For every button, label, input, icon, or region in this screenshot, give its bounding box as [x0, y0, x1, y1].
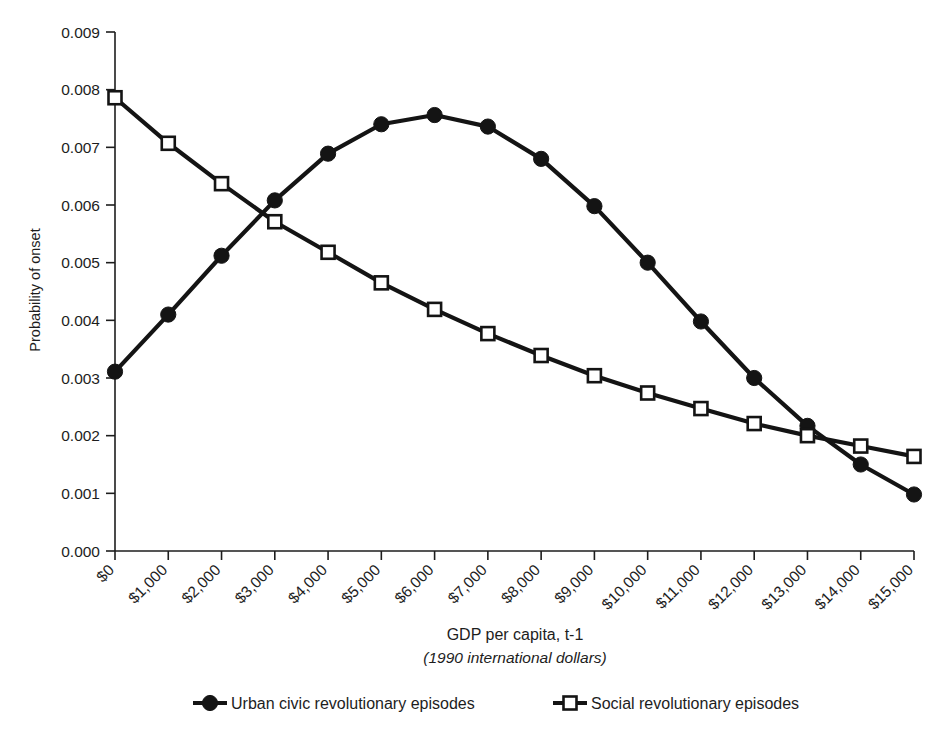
legend-marker-2 [564, 697, 577, 710]
y-axis-title: Probability of onset [27, 228, 43, 351]
data-point [853, 457, 868, 472]
data-point [322, 246, 335, 259]
series-line-1 [115, 115, 914, 494]
x-tick-label: $7,000 [444, 561, 490, 607]
x-tick-label: $3,000 [231, 561, 277, 607]
line-chart: 0.0090.0080.0070.0060.0050.0040.0030.002… [0, 0, 940, 737]
y-tick-label: 0.000 [61, 543, 100, 560]
chart-series-layer [107, 91, 921, 502]
data-point [374, 117, 389, 132]
y-tick-label: 0.005 [61, 254, 100, 271]
data-point [854, 440, 867, 453]
y-tick-label: 0.006 [61, 197, 100, 214]
y-tick-label: 0.003 [61, 370, 100, 387]
x-tick-label: $14,000 [811, 561, 863, 613]
data-point [107, 364, 122, 379]
chart-figure: 0.0090.0080.0070.0060.0050.0040.0030.002… [0, 0, 940, 737]
legend-label-2: Social revolutionary episodes [591, 695, 799, 712]
x-tick-label: $4,000 [285, 561, 331, 607]
chart-axes [115, 32, 914, 551]
data-point [906, 487, 921, 502]
x-tick-label: $15,000 [864, 561, 916, 613]
data-point [427, 107, 442, 122]
x-axis-title: GDP per capita, t-1 [447, 626, 584, 643]
y-tick-label: 0.001 [61, 485, 100, 502]
y-axis-tick-labels: 0.0090.0080.0070.0060.0050.0040.0030.002… [61, 24, 100, 560]
y-tick-label: 0.002 [61, 427, 100, 444]
data-point [161, 307, 176, 322]
series-markers-2 [109, 91, 921, 463]
data-point [640, 255, 655, 270]
data-point [534, 151, 549, 166]
x-tick-label: $10,000 [598, 561, 650, 613]
x-tick-label: $6,000 [391, 561, 437, 607]
data-point [480, 119, 495, 134]
data-point [267, 193, 282, 208]
x-tick-label: $5,000 [338, 561, 384, 607]
series-1 [115, 115, 914, 494]
y-tick-label: 0.008 [61, 81, 100, 98]
y-tick-label: 0.007 [61, 139, 100, 156]
x-tick-label: $9,000 [551, 561, 597, 607]
x-tick-label: $12,000 [705, 561, 757, 613]
x-tick-label: $13,000 [758, 561, 810, 613]
series-2 [115, 98, 914, 457]
series-line-2 [115, 98, 914, 457]
x-tick-label: $11,000 [652, 561, 703, 612]
data-point [747, 370, 762, 385]
data-point [693, 314, 708, 329]
y-axis-ticks [106, 32, 115, 551]
data-point [641, 386, 654, 399]
x-tick-label: $8,000 [498, 561, 544, 607]
data-point [694, 402, 707, 415]
legend-item-1[interactable]: Urban civic revolutionary episodes [193, 695, 475, 712]
x-tick-label: $1,000 [125, 561, 171, 607]
x-axis-tick-labels: $0$1,000$2,000$3,000$4,000$5,000$6,000$7… [93, 561, 916, 613]
y-tick-label: 0.009 [61, 24, 100, 41]
data-point [109, 91, 122, 104]
data-point [481, 327, 494, 340]
x-tick-label: $0 [93, 561, 117, 585]
data-point [587, 199, 602, 214]
data-point [162, 137, 175, 150]
x-tick-label: $2,000 [178, 561, 224, 607]
series-markers-1 [107, 107, 921, 502]
data-point [428, 303, 441, 316]
legend-marker-1 [202, 695, 217, 710]
data-point [215, 177, 228, 190]
x-axis-subtitle: (1990 international dollars) [423, 649, 607, 666]
data-point [748, 417, 761, 430]
data-point [320, 146, 335, 161]
data-point [908, 450, 921, 463]
legend-label-1: Urban civic revolutionary episodes [231, 695, 475, 712]
data-point [375, 276, 388, 289]
data-point [268, 215, 281, 228]
x-axis-ticks [115, 551, 914, 560]
data-point [801, 429, 814, 442]
data-point [214, 248, 229, 263]
legend-item-2[interactable]: Social revolutionary episodes [553, 695, 799, 712]
chart-legend: Urban civic revolutionary episodesSocial… [193, 695, 799, 712]
data-point [535, 349, 548, 362]
data-point [588, 369, 601, 382]
y-tick-label: 0.004 [61, 312, 100, 329]
